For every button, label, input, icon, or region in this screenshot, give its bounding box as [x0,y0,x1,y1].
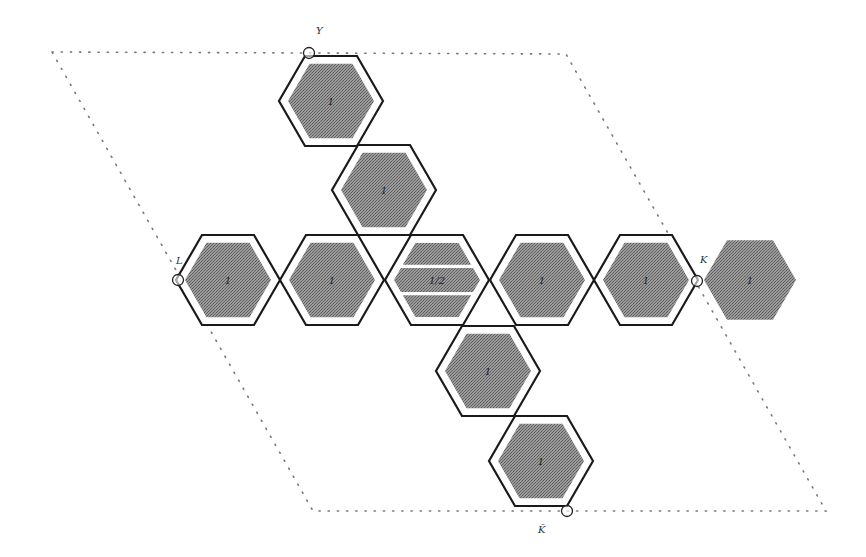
point-marker-icon [173,275,184,286]
point-Y: Y [304,25,325,59]
hexagon-label: 1 [328,96,334,107]
point-label: L [175,255,183,266]
point-marker-icon [304,48,315,59]
hexagon-cell: 1/2 [385,235,489,325]
hexagon-cell: 1 [704,240,796,320]
hexagon-cell: 1 [280,235,384,325]
hexagon-label: 1 [329,275,335,286]
point-label: K [699,254,708,265]
hexagon-cell: 1 [594,235,698,325]
hexagon-diagram: 11111/211111 YLKK̄ [0,0,866,557]
hexagon-label: 1 [381,185,387,196]
point-label: Y [316,25,324,36]
point-marker-icon [562,506,573,517]
hexagon-label: 1 [538,456,544,467]
point-K-bar: K̄ [537,506,573,536]
hexagon-label: 1 [539,275,545,286]
hexagon-cell: 1 [436,326,540,416]
hexagon-cell: 1 [489,416,593,506]
point-label: K̄ [537,524,546,535]
point-marker-icon [692,276,703,287]
hexagon-label: 1 [643,275,649,286]
hexagon-cell: 1 [279,56,383,146]
hexagon-cell: 1 [490,235,594,325]
hexagon-cell: 1 [332,145,436,235]
hexagon-label: 1 [485,366,491,377]
hexagon-label: 1 [747,275,753,286]
hexagon-cell: 1 [176,235,280,325]
hexagon-label: 1/2 [429,275,445,286]
hexagon-label: 1 [225,275,231,286]
